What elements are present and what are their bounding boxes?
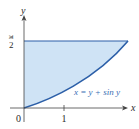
x-tick-label-1: 1	[62, 113, 67, 124]
y-tick-numerator: π	[7, 35, 16, 39]
x-axis-label: x	[130, 102, 136, 113]
shaded-region	[24, 41, 128, 108]
y-axis-label: y	[20, 5, 26, 16]
region-diagram: y x 0 1 π 2 x = y + sin y	[0, 0, 139, 129]
y-tick-denominator: 2	[9, 40, 14, 50]
curve-label: x = y + sin y	[73, 87, 120, 97]
y-tick-label-pi-over-2: π 2	[7, 35, 16, 50]
origin-label: 0	[16, 113, 21, 124]
